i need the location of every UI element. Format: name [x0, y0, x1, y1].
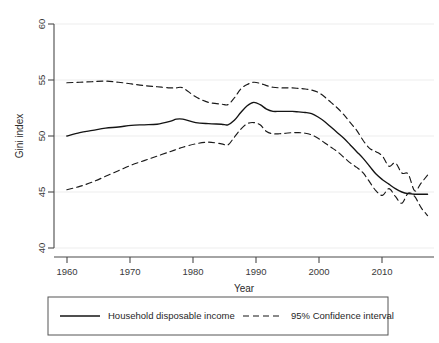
x-tick-label-1980: 1980: [182, 266, 203, 277]
chart-canvas: 60 55 50 45 40 Gini index 1960 1970 1980…: [0, 0, 439, 343]
legend-label-confidence-interval: 95% Confidence interval: [291, 310, 394, 321]
y-tick-label-50: 50: [36, 131, 47, 142]
series-household-disposable-income-line: [67, 102, 428, 194]
y-tick-label-60: 60: [36, 19, 47, 30]
y-tick-label-45: 45: [36, 187, 47, 198]
chart-legend: Household disposable income 95% Confiden…: [48, 297, 394, 335]
x-axis-title: Year: [234, 283, 255, 294]
y-axis-title: Gini index: [14, 114, 25, 158]
y-axis: 60 55 50 45 40 Gini index: [14, 19, 54, 254]
gridlines: [54, 24, 434, 248]
legend-label-household-disposable-income: Household disposable income: [108, 310, 235, 321]
y-tick-label-55: 55: [36, 75, 47, 86]
x-tick-label-2000: 2000: [308, 266, 329, 277]
x-axis: 1960 1970 1980 1990 2000 2010 Year: [54, 257, 434, 294]
y-tick-label-40: 40: [36, 243, 47, 254]
data-series-group: [67, 81, 428, 215]
x-tick-label-1990: 1990: [245, 266, 266, 277]
x-tick-label-1970: 1970: [119, 266, 140, 277]
x-tick-label-2010: 2010: [371, 266, 392, 277]
x-tick-label-1960: 1960: [56, 266, 77, 277]
gini-index-chart-figure: 60 55 50 45 40 Gini index 1960 1970 1980…: [0, 0, 439, 343]
